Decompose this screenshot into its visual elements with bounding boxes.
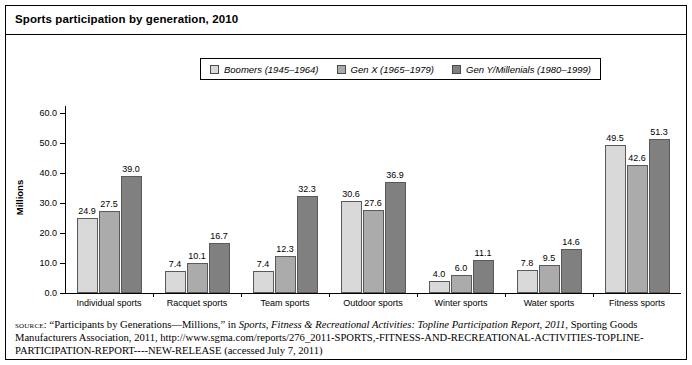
y-axis-tick-label: 40.0 bbox=[16, 168, 57, 178]
bar-value-label: 36.9 bbox=[378, 170, 413, 180]
y-axis-tick-label: 60.0 bbox=[16, 108, 57, 118]
source-publication-title: Sports, Fitness & Recreational Activitie… bbox=[239, 319, 566, 330]
y-axis-tick bbox=[60, 203, 65, 204]
y-axis-tick bbox=[60, 293, 65, 294]
bar-value-label: 49.5 bbox=[598, 133, 633, 143]
y-axis-tick-label-text: 20.0 bbox=[39, 228, 57, 238]
y-axis-tick-label-text: 40.0 bbox=[39, 168, 57, 178]
bar bbox=[209, 243, 230, 293]
bar bbox=[605, 145, 626, 294]
bar-value-label: 16.7 bbox=[202, 231, 237, 241]
bar bbox=[363, 210, 384, 293]
bar bbox=[517, 270, 538, 293]
bar bbox=[297, 196, 318, 293]
screenshot-root: Sports participation by generation, 2010… bbox=[0, 0, 692, 365]
x-axis-group-separator bbox=[153, 293, 154, 297]
x-axis-group-separator bbox=[505, 293, 506, 297]
bar-value-label: 32.3 bbox=[290, 184, 325, 194]
bar bbox=[165, 271, 186, 293]
y-axis-tick-label-text: 50.0 bbox=[39, 138, 57, 148]
bar bbox=[473, 260, 494, 293]
x-axis-category-label: Individual sports bbox=[65, 298, 153, 308]
y-axis-line bbox=[65, 106, 66, 294]
source-text-part1: “Participants by Generations—Millions,” … bbox=[47, 319, 239, 330]
x-axis-category-label: Winter sports bbox=[417, 298, 505, 308]
bar-value-label: 39.0 bbox=[114, 164, 149, 174]
x-axis-category-label: Outdoor sports bbox=[329, 298, 417, 308]
bar bbox=[121, 176, 142, 293]
y-axis-tick bbox=[60, 173, 65, 174]
bar bbox=[429, 281, 450, 293]
x-axis-group-separator bbox=[241, 293, 242, 297]
y-axis-tick bbox=[60, 263, 65, 264]
x-axis-category-label: Racquet sports bbox=[153, 298, 241, 308]
y-axis-tick-label: 10.0 bbox=[16, 258, 57, 268]
bar bbox=[77, 218, 98, 293]
x-axis-group-separator bbox=[417, 293, 418, 297]
x-axis-group-separator bbox=[593, 293, 594, 297]
bar bbox=[275, 256, 296, 293]
x-axis-category-label: Team sports bbox=[241, 298, 329, 308]
y-axis-tick-label-text: 0.0 bbox=[44, 288, 57, 298]
bar bbox=[341, 201, 362, 293]
y-axis-tick-label: 30.0 bbox=[16, 198, 57, 208]
source-note: source: “Participants by Generations—Mil… bbox=[15, 318, 679, 358]
bar bbox=[99, 211, 120, 294]
y-axis-tick-label-text: 60.0 bbox=[39, 108, 57, 118]
bar bbox=[627, 165, 648, 293]
bar bbox=[253, 271, 274, 293]
bar bbox=[539, 265, 560, 294]
y-axis-tick bbox=[60, 143, 65, 144]
y-axis-tick bbox=[60, 113, 65, 114]
y-axis-tick-label: 50.0 bbox=[16, 138, 57, 148]
x-axis-category-label: Water sports bbox=[505, 298, 593, 308]
y-axis-tick-label: 0.0 bbox=[16, 288, 57, 298]
x-axis-category-label: Fitness sports bbox=[593, 298, 681, 308]
y-axis-tick-label-text: 30.0 bbox=[39, 198, 57, 208]
x-axis-line bbox=[65, 293, 681, 294]
y-axis-tick bbox=[60, 233, 65, 234]
bar-value-label: 11.1 bbox=[466, 248, 501, 258]
bar-value-label: 51.3 bbox=[642, 127, 677, 137]
bar bbox=[385, 182, 406, 293]
plot-area: Millions 0.010.020.030.040.050.060.024.9… bbox=[6, 6, 688, 361]
source-kicker: source: bbox=[15, 319, 47, 330]
y-axis-tick-label-text: 10.0 bbox=[39, 258, 57, 268]
bar bbox=[187, 263, 208, 293]
figure-frame: Sports participation by generation, 2010… bbox=[5, 5, 687, 360]
x-axis-group-separator bbox=[329, 293, 330, 297]
bar bbox=[649, 139, 670, 293]
bar bbox=[451, 275, 472, 293]
bar bbox=[561, 249, 582, 293]
bar-value-label: 14.6 bbox=[554, 237, 589, 247]
y-axis-tick-label: 20.0 bbox=[16, 228, 57, 238]
